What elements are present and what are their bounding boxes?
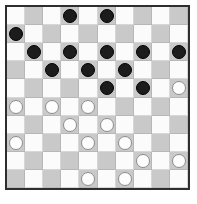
black-piece[interactable] <box>9 27 23 41</box>
black-piece[interactable] <box>63 45 77 59</box>
board-square-r1-c5[interactable] <box>98 25 116 43</box>
board-square-r2-c5[interactable] <box>98 43 116 61</box>
black-piece[interactable] <box>136 45 150 59</box>
board-square-r9-c5[interactable] <box>98 170 116 188</box>
board-square-r1-c9[interactable] <box>170 25 188 43</box>
board-square-r9-c3[interactable] <box>61 170 79 188</box>
board-square-r6-c7[interactable] <box>134 116 152 134</box>
board-square-r8-c2[interactable] <box>43 152 61 170</box>
black-piece[interactable] <box>118 63 132 77</box>
board-square-r3-c1[interactable] <box>25 61 43 79</box>
board-square-r0-c6[interactable] <box>116 7 134 25</box>
board-square-r1-c8[interactable] <box>152 25 170 43</box>
board-square-r9-c7[interactable] <box>134 170 152 188</box>
board-square-r6-c2[interactable] <box>43 116 61 134</box>
white-piece[interactable] <box>9 136 23 150</box>
board-square-r0-c1[interactable] <box>25 7 43 25</box>
board-square-r8-c9[interactable] <box>170 152 188 170</box>
board-square-r0-c5[interactable] <box>98 7 116 25</box>
board-square-r7-c0[interactable] <box>7 134 25 152</box>
white-piece[interactable] <box>136 154 150 168</box>
board-square-r2-c1[interactable] <box>25 43 43 61</box>
board-square-r7-c5[interactable] <box>98 134 116 152</box>
board-square-r4-c0[interactable] <box>7 79 25 97</box>
board-square-r1-c7[interactable] <box>134 25 152 43</box>
board-square-r4-c3[interactable] <box>61 79 79 97</box>
board-square-r2-c9[interactable] <box>170 43 188 61</box>
board-square-r6-c8[interactable] <box>152 116 170 134</box>
board-square-r9-c0[interactable] <box>7 170 25 188</box>
white-piece[interactable] <box>81 100 95 114</box>
board-square-r9-c1[interactable] <box>25 170 43 188</box>
board-square-r8-c4[interactable] <box>79 152 97 170</box>
board-square-r1-c0[interactable] <box>7 25 25 43</box>
board-square-r8-c7[interactable] <box>134 152 152 170</box>
board-square-r5-c6[interactable] <box>116 98 134 116</box>
black-piece[interactable] <box>136 81 150 95</box>
board-square-r7-c7[interactable] <box>134 134 152 152</box>
black-piece[interactable] <box>45 63 59 77</box>
white-piece[interactable] <box>81 172 95 186</box>
board-square-r4-c7[interactable] <box>134 79 152 97</box>
white-piece[interactable] <box>100 118 114 132</box>
board-square-r7-c3[interactable] <box>61 134 79 152</box>
black-piece[interactable] <box>27 45 41 59</box>
board-square-r4-c2[interactable] <box>43 79 61 97</box>
board-square-r4-c6[interactable] <box>116 79 134 97</box>
board-square-r7-c2[interactable] <box>43 134 61 152</box>
board-square-r7-c8[interactable] <box>152 134 170 152</box>
board-square-r1-c2[interactable] <box>43 25 61 43</box>
black-piece[interactable] <box>81 63 95 77</box>
board-square-r5-c1[interactable] <box>25 98 43 116</box>
black-piece[interactable] <box>63 9 77 23</box>
board-square-r2-c6[interactable] <box>116 43 134 61</box>
board-square-r3-c0[interactable] <box>7 61 25 79</box>
board-square-r8-c1[interactable] <box>25 152 43 170</box>
board-square-r1-c6[interactable] <box>116 25 134 43</box>
board-square-r4-c5[interactable] <box>98 79 116 97</box>
white-piece[interactable] <box>63 118 77 132</box>
white-piece[interactable] <box>45 100 59 114</box>
board-square-r3-c9[interactable] <box>170 61 188 79</box>
white-piece[interactable] <box>9 100 23 114</box>
board-square-r9-c2[interactable] <box>43 170 61 188</box>
board-square-r5-c8[interactable] <box>152 98 170 116</box>
board-square-r9-c4[interactable] <box>79 170 97 188</box>
board-square-r6-c6[interactable] <box>116 116 134 134</box>
board-grid[interactable] <box>7 7 188 188</box>
board-square-r9-c6[interactable] <box>116 170 134 188</box>
board-square-r3-c6[interactable] <box>116 61 134 79</box>
board-square-r3-c5[interactable] <box>98 61 116 79</box>
board-square-r3-c4[interactable] <box>79 61 97 79</box>
board-square-r8-c0[interactable] <box>7 152 25 170</box>
board-square-r7-c6[interactable] <box>116 134 134 152</box>
board-square-r6-c0[interactable] <box>7 116 25 134</box>
board-square-r3-c3[interactable] <box>61 61 79 79</box>
board-square-r7-c1[interactable] <box>25 134 43 152</box>
board-square-r8-c5[interactable] <box>98 152 116 170</box>
board-square-r0-c4[interactable] <box>79 7 97 25</box>
board-square-r8-c6[interactable] <box>116 152 134 170</box>
white-piece[interactable] <box>172 81 186 95</box>
board-square-r5-c5[interactable] <box>98 98 116 116</box>
board-square-r4-c4[interactable] <box>79 79 97 97</box>
board-square-r3-c7[interactable] <box>134 61 152 79</box>
board-square-r5-c7[interactable] <box>134 98 152 116</box>
board-square-r9-c9[interactable] <box>170 170 188 188</box>
board-square-r6-c1[interactable] <box>25 116 43 134</box>
board-square-r7-c9[interactable] <box>170 134 188 152</box>
board-square-r2-c0[interactable] <box>7 43 25 61</box>
board-square-r5-c9[interactable] <box>170 98 188 116</box>
board-square-r5-c4[interactable] <box>79 98 97 116</box>
black-piece[interactable] <box>100 45 114 59</box>
white-piece[interactable] <box>172 154 186 168</box>
board-square-r4-c1[interactable] <box>25 79 43 97</box>
black-piece[interactable] <box>172 45 186 59</box>
board-square-r1-c1[interactable] <box>25 25 43 43</box>
board-square-r2-c4[interactable] <box>79 43 97 61</box>
board-square-r2-c3[interactable] <box>61 43 79 61</box>
board-square-r6-c4[interactable] <box>79 116 97 134</box>
board-square-r8-c8[interactable] <box>152 152 170 170</box>
board-square-r5-c2[interactable] <box>43 98 61 116</box>
board-square-r0-c3[interactable] <box>61 7 79 25</box>
